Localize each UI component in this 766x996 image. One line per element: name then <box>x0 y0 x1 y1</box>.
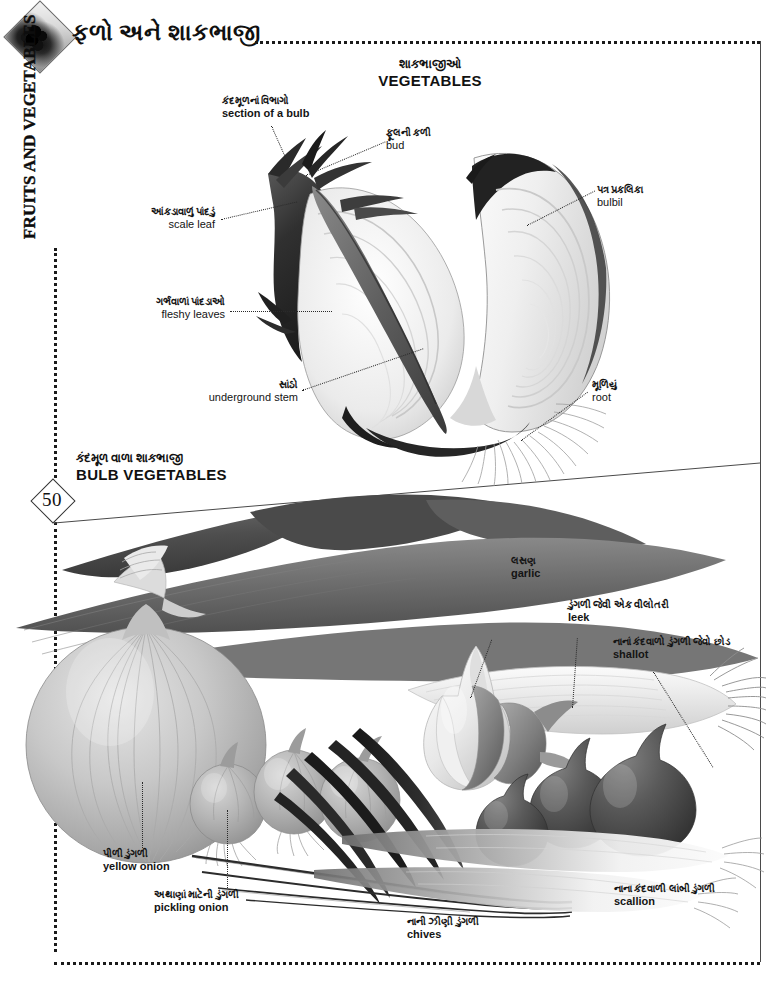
label-underground-stem-gu: સાંઠો <box>160 380 298 391</box>
label-underground-stem: સાંઠો underground stem <box>160 380 298 405</box>
sidebar-section-label: FRUITS AND VEGETABLES <box>20 39 46 239</box>
leader-pickling-onion <box>227 810 228 888</box>
illustration-bulb-vegetables-group <box>6 500 766 950</box>
label-shallot-en: shallot <box>613 648 730 661</box>
label-pickling-onion: અથાણાં માટેની ડુંગળી pickling onion <box>154 890 239 915</box>
leader-fleshy-leaves <box>230 311 332 312</box>
label-leek-gu: ડુંગળી જેવી એક વીલોતરી <box>568 600 669 611</box>
heading-vegetables: શાકભાજીઓ VEGETABLES <box>345 58 515 89</box>
label-yellow-onion: પીળી ડુંગળી yellow onion <box>103 849 170 874</box>
label-shallot-gu: નાનાં કંદવાળો ડુંગળી જેવો છોડ <box>613 637 730 648</box>
leader-yellow-onion <box>142 782 143 848</box>
label-leek: ડુંગળી જેવી એક વીલોતરી leek <box>568 600 669 625</box>
leader-leek <box>572 638 578 708</box>
label-chives: નાની ઝીણી ડુંગળી chives <box>407 917 479 942</box>
label-scallion-gu: નાના કંદવાળી લાંબી ડુંગળી <box>614 884 715 895</box>
heading-vegetables-gu: શાકભાજીઓ <box>345 58 515 72</box>
label-pickling-onion-gu: અથાણાં માટેની ડુંગળી <box>154 890 239 901</box>
label-leek-en: leek <box>568 611 669 624</box>
label-scallion-en: scallion <box>614 895 715 908</box>
label-chives-en: chives <box>407 928 479 941</box>
leader-bud <box>306 141 386 176</box>
heading-bulb-vegetables-en: BULB VEGETABLES <box>76 466 227 484</box>
label-yellow-onion-en: yellow onion <box>103 860 170 873</box>
label-shallot: નાનાં કંદવાળો ડુંગળી જેવો છોડ shallot <box>613 637 730 662</box>
label-root: મૂળિયું root <box>592 380 617 405</box>
label-pickling-onion-en: pickling onion <box>154 901 239 914</box>
bottom-dotted-rule <box>54 962 760 965</box>
leader-bulbil <box>527 190 595 225</box>
label-section-of-a-bulb-gu: કંદમૂળનાં વિભાગો <box>222 96 309 107</box>
left-dotted-rule-lower <box>54 522 57 952</box>
encyclopedia-page: ફળો અને શાકભાજી FRUITS AND VEGETABLES 50… <box>0 0 766 996</box>
page-title: ફળો અને શાકભાજી <box>72 20 261 46</box>
label-section-of-a-bulb: કંદમૂળનાં વિભાગો section of a bulb <box>222 96 309 121</box>
header-dotted-rule <box>255 41 760 44</box>
leader-underground-stem <box>302 348 423 391</box>
label-bud-gu: ફૂલની કળી <box>386 128 431 139</box>
label-root-gu: મૂળિયું <box>592 380 617 391</box>
label-scallion: નાના કંદવાળી લાંબી ડુંગળી scallion <box>614 884 715 909</box>
label-chives-gu: નાની ઝીણી ડુંગળી <box>407 917 479 928</box>
label-scale-leaf: આંકડાવાળું પાંદડું scale leaf <box>90 207 215 232</box>
heading-vegetables-en: VEGETABLES <box>345 72 515 90</box>
page-number: 50 <box>29 477 75 523</box>
leader-section-of-a-bulb <box>271 126 289 165</box>
label-garlic: લસણ garlic <box>511 556 540 581</box>
label-bud: ફૂલની કળી bud <box>386 128 431 153</box>
label-garlic-gu: લસણ <box>511 556 540 567</box>
label-scale-leaf-gu: આંકડાવાળું પાંદડું <box>90 207 215 218</box>
label-fleshy-leaves: ગર્ભવાળાં પાંદડાઓ fleshy leaves <box>70 297 225 322</box>
label-bud-en: bud <box>386 139 431 152</box>
label-section-of-a-bulb-en: section of a bulb <box>222 107 309 120</box>
label-bulbil-en: bulbil <box>597 196 643 209</box>
leader-scale-leaf <box>221 201 297 220</box>
leader-garlic <box>470 640 492 699</box>
label-underground-stem-en: underground stem <box>160 391 298 404</box>
label-garlic-en: garlic <box>511 567 540 580</box>
label-fleshy-leaves-gu: ગર્ભવાળાં પાંદડાઓ <box>70 297 225 308</box>
label-bulbil-gu: પત્ર પ્રકલિકા <box>597 185 643 196</box>
illustration-bulb-cross-section <box>250 118 630 478</box>
leader-root <box>521 392 588 441</box>
label-yellow-onion-gu: પીળી ડુંગળી <box>103 849 170 860</box>
left-dotted-rule-upper <box>54 248 57 478</box>
label-scale-leaf-en: scale leaf <box>90 218 215 231</box>
heading-bulb-vegetables-gu: કંદમૂળ વાળા શાકભાજી <box>76 452 227 466</box>
label-bulbil: પત્ર પ્રકલિકા bulbil <box>597 185 643 210</box>
page-number-badge: 50 <box>29 477 75 523</box>
leader-shallot <box>653 672 713 768</box>
label-root-en: root <box>592 391 617 404</box>
heading-bulb-vegetables: કંદમૂળ વાળા શાકભાજી BULB VEGETABLES <box>76 452 227 483</box>
label-fleshy-leaves-en: fleshy leaves <box>70 308 225 321</box>
